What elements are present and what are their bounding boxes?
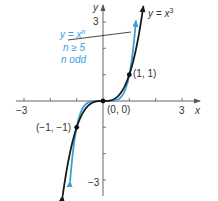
- point-origin: [101, 99, 106, 104]
- y-tick-label-neg3: −3: [88, 177, 100, 188]
- x-tick-label-3: 3: [179, 105, 185, 116]
- y-tick-label-3: 3: [93, 16, 99, 27]
- point-1-1: [127, 72, 132, 77]
- chart: y x 3 −3 −3 3 (0, 0) (1, 1) (−1, −1) y =…: [0, 0, 218, 201]
- power-curve-label-line2: n ≥ 5: [63, 42, 86, 53]
- x-axis-label: x: [194, 105, 201, 116]
- point-neg1-neg1: [74, 125, 79, 130]
- point-label-1-1: (1, 1): [133, 68, 156, 79]
- power-curve-label-line3: n odd: [61, 54, 86, 65]
- x-tick-label-neg3: −3: [16, 105, 28, 116]
- point-label-origin: (0, 0): [107, 104, 130, 115]
- point-label-neg1-neg1: (−1, −1): [36, 122, 71, 133]
- cubic-curve-label: y = x3: [147, 7, 173, 19]
- y-axis-label: y: [92, 2, 99, 13]
